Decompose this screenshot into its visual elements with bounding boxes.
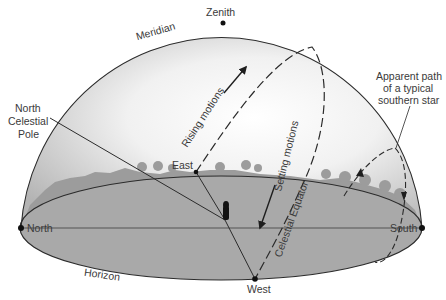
star-label-leader [396,106,410,148]
north-label: North [27,222,53,234]
ncp-label-line2: Celestial [8,115,48,127]
south-point [419,225,425,231]
zenith-label: Zenith [206,6,235,18]
west-label: West [247,283,271,295]
ncp-label-line1: North [15,102,41,114]
west-point [252,276,258,282]
ncp-label-line3: Pole [18,128,39,140]
zenith-point [221,21,226,26]
observer-figure [223,201,229,220]
celestial-sphere-diagram: Zenith Meridian North Celestial Pole Eas… [0,0,446,300]
star-label-line3: southern star [378,94,440,106]
star-label-line2: of a typical [383,82,433,94]
east-label: East [172,159,193,171]
meridian-label: Meridian [134,20,176,43]
south-label: South [390,222,418,234]
star-label-line1: Apparent path [376,70,442,82]
east-point [194,170,199,175]
north-point [18,225,24,231]
